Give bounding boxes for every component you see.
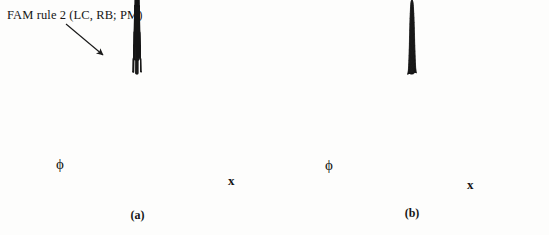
axis-label-phi-b: ϕ [325,158,333,173]
fam-rule-annotation: FAM rule 2 (LC, RB; PM) [7,8,142,23]
axis-label-x-b: x [467,178,474,191]
figure-container: FAM rule 2 (LC, RB; PM) ϕ x (a) ϕ x (b) [0,0,549,235]
caption-b: (b) [275,206,549,221]
axis-label-phi-a: ϕ [56,157,64,172]
axis-label-x-a: x [228,174,235,187]
surface-plot-b [275,0,549,205]
panel-b: ϕ x (b) [275,0,549,235]
caption-a: (a) [0,208,275,223]
panel-a: FAM rule 2 (LC, RB; PM) ϕ x (a) [0,0,275,235]
